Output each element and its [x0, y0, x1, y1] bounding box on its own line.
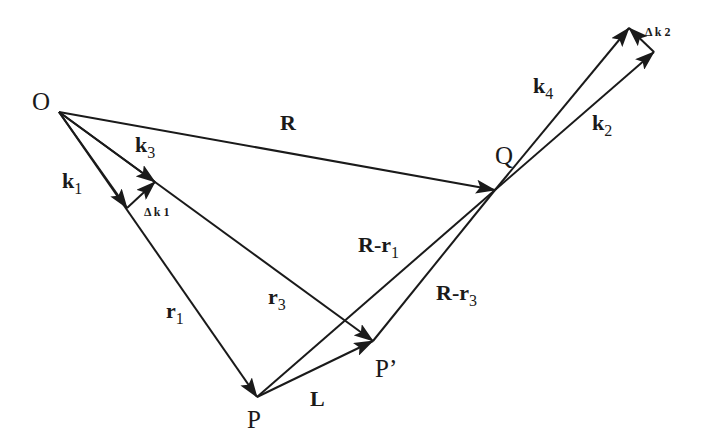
label-L: L	[310, 386, 325, 411]
point-label-O: O	[32, 88, 50, 115]
label-k1: k1	[62, 168, 82, 197]
label-R-minus-r3: R-r3	[436, 280, 477, 309]
vector-R	[59, 112, 495, 190]
point-label-P-prime: P’	[375, 355, 397, 382]
point-label-Q: Q	[495, 142, 513, 169]
label-R-minus-r1: R-r1	[358, 232, 399, 261]
label-r1: r1	[166, 298, 184, 327]
label-k4: k4	[533, 73, 553, 102]
vector-k4	[495, 28, 629, 190]
vector-k1	[59, 112, 127, 208]
vector-k2	[495, 52, 654, 190]
label-R: R	[280, 110, 297, 135]
label-k2: k2	[592, 110, 612, 139]
label-delta-k1: Δ k 1	[144, 205, 170, 219]
vector-R-minus-r3	[373, 190, 495, 341]
label-r3: r3	[268, 284, 286, 313]
label-k3: k3	[135, 132, 155, 161]
point-label-P: P	[247, 406, 261, 433]
label-delta-k2: Δ k 2	[645, 25, 671, 39]
vector-diagram: O Q P P’ R k1 k3 Δ k 1 r1 r3 R-r1 R-r3 L…	[0, 0, 706, 440]
